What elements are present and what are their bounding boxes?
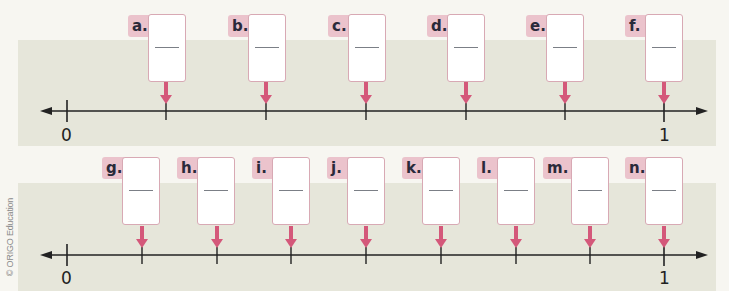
- answer-box-k[interactable]: [422, 157, 460, 225]
- answer-box-d[interactable]: [447, 14, 485, 82]
- pointer-arrows-bottom: [136, 226, 670, 248]
- fraction-bar: [155, 47, 179, 48]
- answer-box-b[interactable]: [248, 14, 286, 82]
- bottom-end-label: 1: [659, 268, 670, 288]
- copyright-text: © ORIGO Education: [5, 197, 15, 277]
- fraction-bar: [454, 47, 478, 48]
- top-start-label: 0: [61, 125, 72, 145]
- fraction-bar: [354, 190, 378, 191]
- top-end-label: 1: [659, 125, 670, 145]
- fraction-bar: [255, 47, 279, 48]
- left-arrowhead-icon: [40, 251, 52, 259]
- fraction-bar: [355, 47, 379, 48]
- fraction-bar: [279, 190, 303, 191]
- item-label-m: m.: [543, 157, 573, 179]
- answer-box-c[interactable]: [348, 14, 386, 82]
- answer-box-l[interactable]: [497, 157, 535, 225]
- answer-box-e[interactable]: [546, 14, 584, 82]
- answer-box-f[interactable]: [645, 14, 683, 82]
- answer-box-a[interactable]: [148, 14, 186, 82]
- fraction-bar: [652, 190, 676, 191]
- fraction-bar: [504, 190, 528, 191]
- top-number-line: [40, 100, 708, 122]
- answer-box-n[interactable]: [645, 157, 683, 225]
- fraction-bar: [429, 190, 453, 191]
- answer-box-g[interactable]: [122, 157, 160, 225]
- answer-box-i[interactable]: [272, 157, 310, 225]
- fraction-bar: [129, 190, 153, 191]
- pointer-arrows-top: [160, 82, 670, 104]
- right-arrowhead-icon: [696, 251, 708, 259]
- bottom-start-label: 0: [61, 268, 72, 288]
- left-arrowhead-icon: [40, 107, 52, 115]
- fraction-bar: [578, 190, 602, 191]
- answer-box-m[interactable]: [571, 157, 609, 225]
- fraction-bar: [652, 47, 676, 48]
- fraction-bar: [553, 47, 577, 48]
- bottom-number-line: [40, 244, 708, 266]
- fraction-bar: [204, 190, 228, 191]
- right-arrowhead-icon: [696, 107, 708, 115]
- answer-box-h[interactable]: [197, 157, 235, 225]
- answer-box-j[interactable]: [347, 157, 385, 225]
